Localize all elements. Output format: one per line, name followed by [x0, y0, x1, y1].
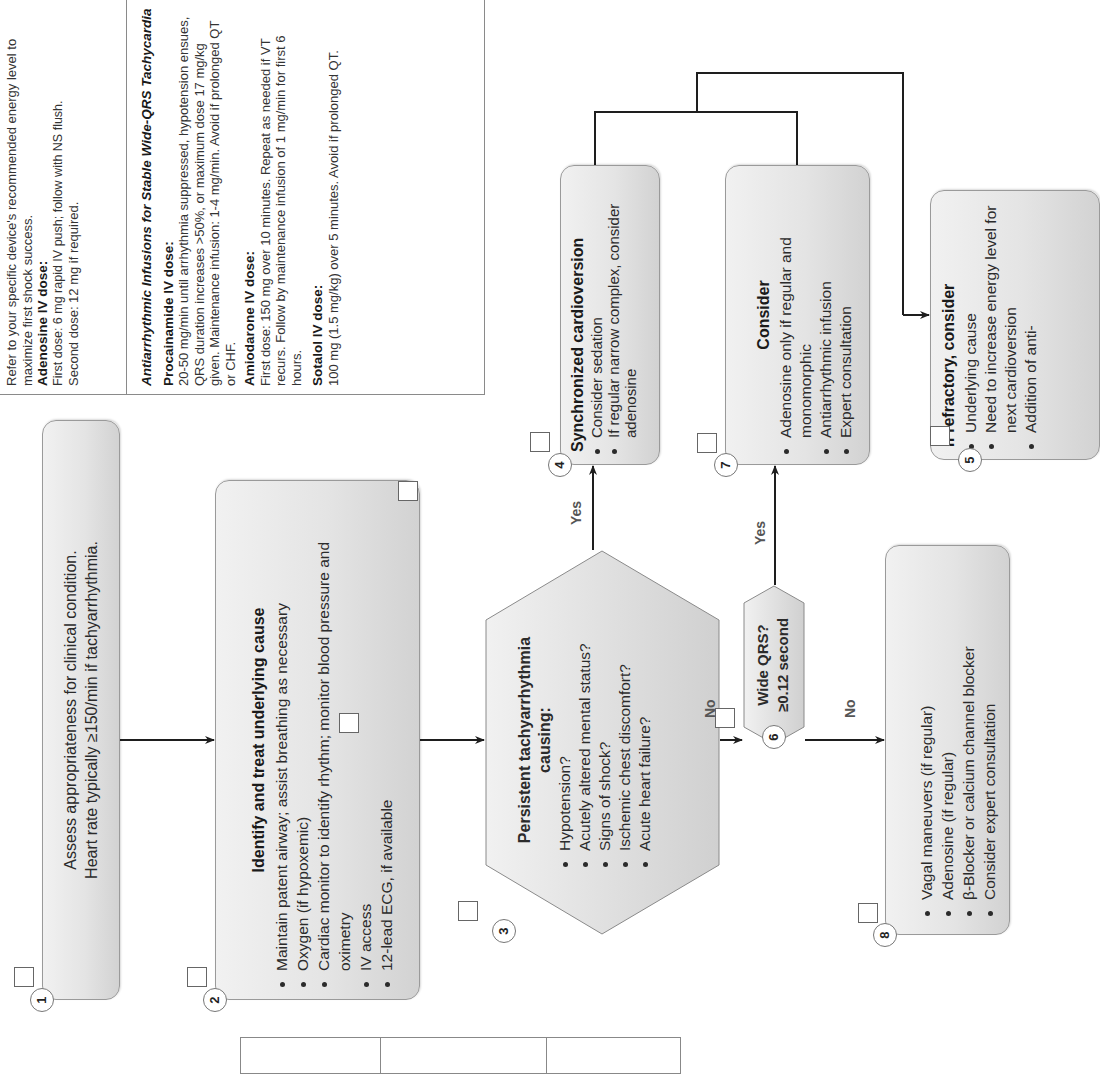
step-4-item: Consider sedation	[588, 178, 605, 438]
loop-from-4-and-7	[595, 112, 797, 165]
step-8-list: Vagal maneuvers (if regular) Adenosine (…	[916, 560, 1000, 914]
step-3-number-badge: 3	[492, 919, 516, 943]
step-8-item: Consider expert consultation	[979, 560, 1000, 900]
edge-label-6-no: No	[842, 699, 858, 718]
step-5-refractory-box: If refractory, consider Underlying cause…	[930, 190, 1100, 460]
step-5-title: If refractory, consider	[939, 203, 959, 447]
step-7-checkbox[interactable]	[697, 433, 717, 453]
table-cell	[547, 1038, 681, 1074]
step-1-number-badge: 1	[30, 988, 54, 1012]
step-6-line-1: Wide QRS?	[753, 585, 773, 745]
step-6-number-badge: 6	[762, 725, 786, 749]
step-6-checkbox[interactable]	[715, 708, 735, 728]
partial-table-fragment	[240, 1037, 681, 1074]
edge-label-3-no: No	[702, 699, 718, 718]
step-3-item: Acute heart failure?	[635, 615, 655, 851]
step-7-number-badge: 7	[714, 453, 738, 477]
step-8-number-badge: 8	[873, 923, 897, 947]
step-1-line-1: Assess appropriateness for clinical cond…	[60, 421, 81, 999]
step-2-inline-checkbox-a[interactable]	[398, 481, 418, 501]
step-4-synchronized-cardioversion-box: Synchronized cardioversion Consider seda…	[560, 165, 660, 465]
step-3-item: Signs of shock?	[595, 615, 615, 851]
step-2-item: Cardiac monitor to identify rhythm; moni…	[313, 495, 355, 971]
step-7-item: Antiarrhythmic infusion	[816, 178, 836, 438]
step-5-item: Addition of anti-	[1021, 203, 1041, 433]
step-7-item: Expert consultation	[836, 178, 856, 438]
step-6-wide-qrs-hexagon: Wide QRS? ≥0.12 second	[743, 585, 805, 745]
step-2-item: IV access	[355, 495, 376, 971]
step-3-item: Acutely altered mental status?	[575, 615, 595, 851]
step-2-checkbox[interactable]	[187, 967, 207, 987]
edge-label-6-yes: Yes	[752, 521, 768, 545]
step-8-item: β-Blocker or calcium channel blocker	[958, 560, 979, 900]
step-7-title: Consider	[754, 178, 774, 452]
step-8-checkbox[interactable]	[858, 903, 878, 923]
step-5-item: Underlying cause	[961, 203, 981, 433]
step-4-item: If regular narrow complex, consider aden…	[605, 178, 639, 438]
step-1-checkbox[interactable]	[14, 967, 34, 987]
step-2-item: Oxygen (if hypoxemic)	[292, 495, 313, 971]
step-1-line-2: Heart rate typically ≥150/min if tachyar…	[81, 421, 102, 999]
step-2-item: Maintain patent airway; assist breathing…	[271, 495, 292, 971]
step-3-content: Persistent tachyarrhythmia causing: Hypo…	[515, 615, 655, 865]
step-5-list: Underlying cause Need to increase energy…	[961, 203, 1041, 447]
step-2-title: Identify and treat underlying cause	[248, 495, 269, 985]
step-8-item: Vagal maneuvers (if regular)	[916, 560, 937, 900]
step-6-line-2: ≥0.12 second	[773, 585, 793, 745]
step-3-title: Persistent tachyarrhythmia causing:	[515, 615, 555, 865]
step-3-decision-hexagon: Persistent tachyarrhythmia causing: Hypo…	[485, 550, 720, 935]
step-5-item: Need to increase energy level for next c…	[981, 203, 1021, 433]
step-2-inline-checkbox-b[interactable]	[339, 713, 359, 733]
step-2-identify-treat-box: Identify and treat underlying cause Main…	[215, 480, 420, 1000]
step-4-checkbox[interactable]	[530, 432, 550, 452]
step-3-item: Ischemic chest discomfort?	[615, 615, 635, 851]
table-cell	[381, 1038, 547, 1074]
step-1-assess-box: Assess appropriateness for clinical cond…	[42, 420, 120, 1000]
step-5-number-badge: 5	[958, 448, 982, 472]
step-5-checkbox[interactable]	[930, 426, 950, 446]
table-cell	[241, 1038, 381, 1074]
edge-label-3-yes: Yes	[568, 501, 584, 525]
step-4-number-badge: 4	[548, 453, 572, 477]
step-3-list: Hypotension? Acutely altered mental stat…	[555, 615, 655, 865]
step-4-title: Synchronized cardioversion	[569, 178, 586, 452]
step-3-checkbox[interactable]	[458, 901, 478, 921]
step-7-item: Adenosine only if regular and monomorphi…	[776, 178, 816, 438]
step-2-list: Maintain patent airway; assist breathing…	[271, 495, 397, 985]
step-7-list: Adenosine only if regular and monomorphi…	[776, 178, 856, 452]
step-2-item: 12-lead ECG, if available	[376, 495, 397, 971]
step-2-number-badge: 2	[203, 988, 227, 1012]
step-8-narrow-qrs-box: Vagal maneuvers (if regular) Adenosine (…	[885, 545, 1010, 935]
step-7-consider-box: Consider Adenosine only if regular and m…	[725, 165, 870, 465]
step-4-list: Consider sedation If regular narrow comp…	[588, 178, 639, 452]
step-8-item: Adenosine (if regular)	[937, 560, 958, 900]
step-3-item: Hypotension?	[555, 615, 575, 851]
step-6-content: Wide QRS? ≥0.12 second	[753, 585, 793, 745]
